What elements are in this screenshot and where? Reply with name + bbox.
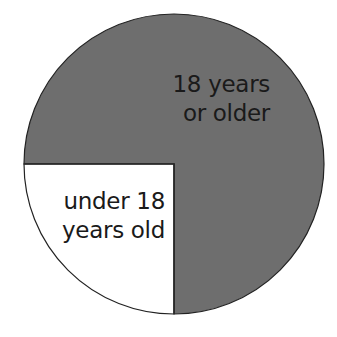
label-18-or-older: 18 years or older	[160, 70, 270, 128]
label-under-18-line2: years old	[40, 216, 165, 245]
label-18-or-older-line2: or older	[160, 99, 270, 128]
label-18-or-older-line1: 18 years	[160, 70, 270, 99]
label-under-18: under 18 years old	[40, 187, 165, 245]
pie-chart	[0, 0, 337, 337]
label-under-18-line1: under 18	[40, 187, 165, 216]
